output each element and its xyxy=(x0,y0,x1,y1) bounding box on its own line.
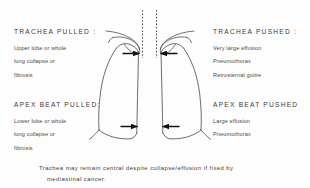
trachea-pulled-item-2: lung collapse or xyxy=(14,58,96,64)
apex-pulled-item-3: fibrosis xyxy=(14,145,101,151)
trachea-pushed-item-2: Pneumothorax xyxy=(213,58,297,64)
apex-pulled-item-1: Lower lobe or whole xyxy=(14,118,101,124)
apex-pulled-item-2: lung collapse or xyxy=(14,131,101,137)
heading-trachea-pushed: TRACHEA PUSHED : xyxy=(213,28,297,35)
heading-apex-beat-pulled: APEX BEAT PULLED: xyxy=(14,101,101,108)
heading-apex-beat-pushed: APEX BEAT PUSHED xyxy=(213,101,298,108)
clavicle-left xyxy=(106,31,140,54)
label-trachea-pulled: TRACHEA PULLED : Upper lobe or whole lun… xyxy=(14,28,96,78)
trachea-pulled-item-3: fibrosis xyxy=(14,72,96,78)
figure-caption: Trachea may remain central despite colla… xyxy=(39,163,289,184)
trachea-pushed-item-3: Retrosternal goitre xyxy=(213,72,297,78)
heading-trachea-pulled: TRACHEA PULLED : xyxy=(14,28,96,35)
left-lung-outline xyxy=(161,44,211,140)
figure-canvas: TRACHEA PULLED : Upper lobe or whole lun… xyxy=(0,0,310,188)
label-trachea-pushed: TRACHEA PUSHED : Very large effusion Pne… xyxy=(213,28,297,78)
label-apex-beat-pushed: APEX BEAT PUSHED Large effusion Pneumoth… xyxy=(213,101,298,137)
trachea-pushed-item-1: Very large effusion xyxy=(213,45,297,51)
label-apex-beat-pulled: APEX BEAT PULLED: Lower lobe or whole lu… xyxy=(14,101,101,151)
clavicle-right xyxy=(160,31,194,54)
trachea-pulled-item-1: Upper lobe or whole xyxy=(14,45,96,51)
caption-line-1: Trachea may remain central despite colla… xyxy=(39,165,233,171)
apex-pushed-item-1: Large effusion xyxy=(213,118,298,124)
apex-pushed-item-2: Pneumothorax xyxy=(213,131,298,137)
caption-line-2: mediastinal cancer. xyxy=(47,174,289,185)
trachea xyxy=(143,10,157,58)
